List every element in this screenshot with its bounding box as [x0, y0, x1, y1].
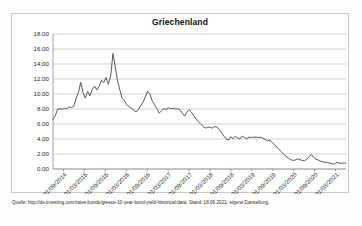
x-axis-tick-labels: 01/09/201401/03/201501/09/201501/03/2016…	[41, 170, 340, 194]
y-tick-label: 16.00	[34, 45, 50, 52]
y-tick-label: 14.00	[34, 60, 50, 67]
y-tick-label: 2.00	[37, 150, 50, 157]
y-tick-label: 10.00	[34, 90, 50, 97]
y-tick-label: 0.00	[37, 165, 50, 172]
y-tick-label: 6.00	[37, 120, 50, 127]
source-caption: Quelle: http://de.investing.com/rates-bo…	[12, 200, 356, 206]
x-tick-label: 01/03/2021	[313, 170, 340, 194]
line-chart-plot: 0.002.004.006.008.0010.0012.0014.0016.00…	[12, 14, 350, 194]
y-tick-label: 8.00	[37, 105, 50, 112]
y-tick-label: 18.00	[34, 30, 50, 37]
chart-frame: Griechenland 0.002.004.006.008.0010.0012…	[11, 13, 349, 193]
y-tick-label: 12.00	[34, 75, 50, 82]
gridlines-group	[53, 34, 346, 172]
figure-container: Griechenland 0.002.004.006.008.0010.0012…	[0, 0, 362, 226]
y-tick-label: 4.00	[37, 135, 50, 142]
y-axis-tick-labels: 0.002.004.006.008.0010.0012.0014.0016.00…	[34, 30, 50, 172]
